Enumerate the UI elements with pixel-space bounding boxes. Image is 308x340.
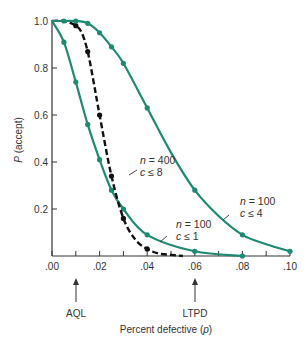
x-tick-label: .06 — [188, 261, 202, 272]
data-point-marker — [85, 49, 90, 54]
y-tick-label: 0.2 — [34, 204, 48, 215]
y-tick-label: 1.0 — [34, 16, 48, 27]
svg-text:c ≤ 8: c ≤ 8 — [140, 166, 163, 178]
y-axis-label: P (accept) — [13, 117, 24, 163]
data-point-marker — [61, 40, 66, 45]
data-point-marker — [97, 30, 102, 35]
x-tick-label: .00 — [45, 261, 59, 272]
data-point-marker — [240, 253, 245, 258]
annotation-n400-c8: n = 400 c ≤ 8 — [129, 154, 175, 178]
data-point-marker — [109, 44, 114, 49]
svg-text:n = 400: n = 400 — [140, 154, 175, 166]
ltpd-marker: LTPD — [183, 278, 208, 319]
series-layer — [52, 18, 293, 258]
svg-text:LTPD: LTPD — [183, 308, 208, 319]
y-tick-label: 0.6 — [34, 110, 48, 121]
data-point-marker — [121, 61, 126, 66]
data-point-marker — [192, 188, 197, 193]
svg-text:n = 100: n = 100 — [176, 218, 211, 230]
data-point-marker — [109, 174, 114, 179]
x-tick-label: .10 — [283, 261, 297, 272]
arrow-up-icon — [192, 278, 198, 285]
annotation-n100-c4: n = 100 c ≤ 4 — [223, 195, 275, 220]
data-point-marker — [145, 232, 150, 237]
x-axis-label: Percent defective (p) — [120, 324, 212, 335]
data-point-marker — [97, 112, 102, 117]
x-tick-label: .02 — [93, 261, 107, 272]
svg-text:c ≤ 1: c ≤ 1 — [176, 230, 199, 242]
svg-text:c ≤ 4: c ≤ 4 — [240, 207, 263, 219]
data-point-marker — [97, 157, 102, 162]
data-point-marker — [121, 216, 126, 221]
data-point-marker — [192, 249, 197, 254]
y-tick-label: 0.8 — [34, 63, 48, 74]
svg-text:n = 100: n = 100 — [240, 195, 275, 207]
data-point-marker — [145, 105, 150, 110]
data-point-marker — [240, 232, 245, 237]
data-point-marker — [73, 18, 78, 23]
data-point-marker — [73, 80, 78, 85]
series-100-c1 — [52, 21, 245, 259]
data-point-marker — [145, 246, 150, 251]
x-tick-label: .08 — [235, 261, 249, 272]
data-point-marker — [73, 23, 78, 28]
data-point-marker — [61, 18, 66, 23]
arrow-up-icon — [73, 278, 79, 285]
annotation-n100-c1: n = 100 c ≤ 1 — [160, 218, 211, 242]
oc-curve-chart: 0.20.40.60.81.0 .00.02.04.06.08.10 P (ac… — [0, 0, 308, 340]
data-point-marker — [287, 249, 292, 254]
data-point-marker — [85, 122, 90, 127]
x-tick-label: .04 — [140, 261, 154, 272]
aql-marker: AQL — [66, 278, 86, 319]
y-ticks: 0.20.40.60.81.0 — [34, 16, 57, 215]
svg-text:AQL: AQL — [66, 308, 86, 319]
data-point-marker — [85, 21, 90, 26]
series-line — [52, 21, 242, 256]
y-tick-label: 0.4 — [34, 157, 48, 168]
